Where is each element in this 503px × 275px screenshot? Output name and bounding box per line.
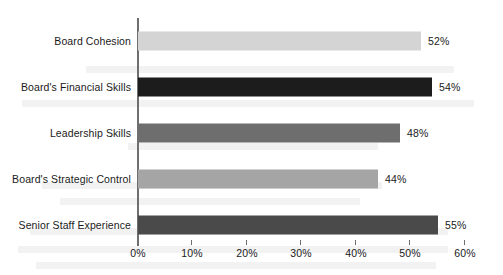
axis-tick	[246, 240, 247, 245]
axis-tick-label: 50%	[399, 247, 420, 259]
bar-value-label: 44%	[385, 173, 406, 185]
axis-tick	[355, 240, 356, 245]
bar-row: Board's Strategic Control 44%	[0, 156, 503, 202]
axis-tick-label: 10%	[181, 247, 202, 259]
axis-tick	[464, 240, 465, 245]
axis-tick-label: 40%	[345, 247, 366, 259]
bar-value-label: 52%	[428, 35, 449, 47]
axis-tick	[300, 240, 301, 245]
bar-row: Leadership Skills 48%	[0, 110, 503, 156]
bar-value-label: 48%	[407, 127, 428, 139]
category-label: Board's Financial Skills	[21, 81, 131, 93]
axis-tick-label: 20%	[236, 247, 257, 259]
bar-senior-staff-experience[interactable]	[138, 216, 438, 235]
axis-tick-label: 0%	[130, 247, 145, 259]
bar-leadership-skills[interactable]	[138, 124, 400, 143]
bar-value-label: 55%	[445, 219, 466, 231]
bar-row: Board Cohesion 52%	[0, 18, 503, 64]
category-label: Board's Strategic Control	[12, 173, 131, 185]
plot-area: Board Cohesion 52% Board's Financial Ski…	[0, 0, 503, 275]
axis-tick	[191, 240, 192, 245]
bar-value-label: 54%	[439, 81, 460, 93]
axis-tick-label: 60%	[454, 247, 475, 259]
bar-board-cohesion[interactable]	[138, 32, 421, 51]
bar-boards-strategic-control[interactable]	[138, 170, 378, 189]
category-label: Senior Staff Experience	[19, 219, 131, 231]
axis-tick	[137, 240, 138, 245]
axis-tick-label: 30%	[290, 247, 311, 259]
bar-chart: Board Cohesion 52% Board's Financial Ski…	[0, 0, 503, 275]
category-label: Leadership Skills	[50, 127, 131, 139]
axis-tick	[409, 240, 410, 245]
bar-row: Board's Financial Skills 54%	[0, 64, 503, 110]
category-label: Board Cohesion	[54, 35, 131, 47]
value-axis: 0% 10% 20% 30% 40% 50% 60%	[0, 240, 503, 270]
bar-boards-financial-skills[interactable]	[138, 78, 432, 97]
